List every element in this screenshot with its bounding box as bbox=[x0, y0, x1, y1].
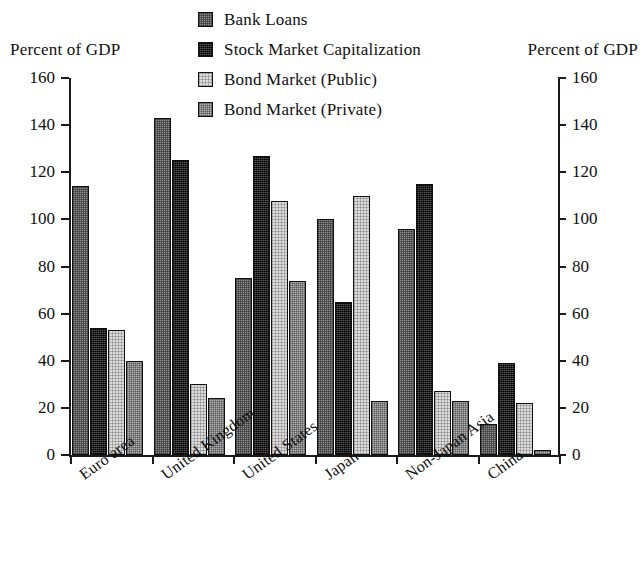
bar bbox=[317, 219, 334, 455]
left-tick-label-100: 100 bbox=[30, 210, 56, 227]
category-tick bbox=[559, 455, 561, 464]
right-tick-label-120: 120 bbox=[572, 163, 598, 180]
bar bbox=[172, 160, 189, 455]
bar bbox=[253, 156, 270, 455]
left-tick-120 bbox=[61, 171, 69, 173]
right-tick-label-20: 20 bbox=[572, 399, 589, 416]
right-tick-100 bbox=[558, 218, 566, 220]
bar bbox=[72, 186, 89, 455]
bar bbox=[416, 184, 433, 455]
right-axis-title: Percent of GDP bbox=[528, 40, 638, 60]
legend-swatch-bank-loans bbox=[198, 12, 213, 27]
category-tick bbox=[396, 455, 398, 464]
left-tick-140 bbox=[61, 124, 69, 126]
category-tick bbox=[478, 455, 480, 464]
legend-label-stock-market-capitalization: Stock Market Capitalization bbox=[224, 40, 421, 59]
category-tick bbox=[233, 455, 235, 464]
right-tick-label-140: 140 bbox=[572, 116, 598, 133]
bar-group bbox=[317, 78, 388, 455]
right-tick-20 bbox=[558, 407, 566, 409]
bar-group bbox=[480, 78, 551, 455]
bar bbox=[398, 229, 415, 455]
right-tick-140 bbox=[558, 124, 566, 126]
right-tick-label-100: 100 bbox=[572, 210, 598, 227]
left-tick-160 bbox=[61, 77, 69, 79]
bar bbox=[335, 302, 352, 455]
right-tick-label-40: 40 bbox=[572, 352, 589, 369]
left-tick-80 bbox=[61, 266, 69, 268]
right-tick-label-160: 160 bbox=[572, 69, 598, 86]
left-tick-100 bbox=[61, 218, 69, 220]
left-tick-label-140: 140 bbox=[30, 116, 56, 133]
left-tick-0 bbox=[61, 454, 69, 456]
bar bbox=[516, 403, 533, 455]
right-tick-120 bbox=[558, 171, 566, 173]
bar-group bbox=[72, 78, 143, 455]
bar bbox=[353, 196, 370, 455]
right-tick-160 bbox=[558, 77, 566, 79]
plot-area: 020406080100120140160 020406080100120140… bbox=[70, 78, 559, 455]
left-tick-label-40: 40 bbox=[38, 352, 55, 369]
legend-swatch-stock-market-capitalization bbox=[198, 42, 213, 57]
bar bbox=[534, 450, 551, 455]
left-tick-label-80: 80 bbox=[38, 258, 55, 275]
left-tick-label-60: 60 bbox=[38, 305, 55, 322]
chart-figure: Bank Loans Stock Market Capitalization B… bbox=[0, 0, 644, 574]
bar-group bbox=[154, 78, 225, 455]
bar bbox=[371, 401, 388, 455]
right-tick-40 bbox=[558, 360, 566, 362]
legend-item-stock-market-capitalization: Stock Market Capitalization bbox=[198, 34, 528, 64]
legend-item-bank-loans: Bank Loans bbox=[198, 4, 528, 34]
left-tick-label-0: 0 bbox=[47, 446, 56, 463]
left-tick-20 bbox=[61, 407, 69, 409]
left-axis-line bbox=[69, 78, 71, 455]
left-tick-60 bbox=[61, 313, 69, 315]
right-tick-label-80: 80 bbox=[572, 258, 589, 275]
left-axis-title: Percent of GDP bbox=[10, 40, 120, 60]
bar bbox=[154, 118, 171, 455]
bar-group bbox=[235, 78, 306, 455]
right-tick-label-60: 60 bbox=[572, 305, 589, 322]
right-tick-80 bbox=[558, 266, 566, 268]
left-tick-label-160: 160 bbox=[30, 69, 56, 86]
right-tick-label-0: 0 bbox=[572, 446, 581, 463]
right-tick-60 bbox=[558, 313, 566, 315]
category-tick bbox=[70, 455, 72, 464]
left-tick-40 bbox=[61, 360, 69, 362]
legend-label-bank-loans: Bank Loans bbox=[224, 10, 308, 29]
bar bbox=[498, 363, 515, 455]
bar-group bbox=[398, 78, 469, 455]
category-tick bbox=[315, 455, 317, 464]
category-tick bbox=[152, 455, 154, 464]
bar bbox=[271, 201, 288, 455]
left-tick-label-120: 120 bbox=[30, 163, 56, 180]
bar bbox=[90, 328, 107, 455]
left-tick-label-20: 20 bbox=[38, 399, 55, 416]
